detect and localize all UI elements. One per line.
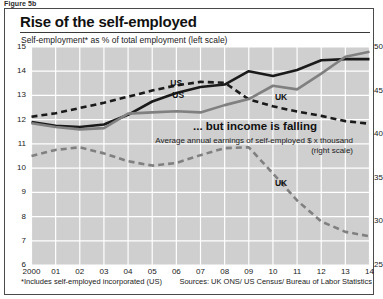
- right-axis-tick-30: 30: [374, 217, 383, 225]
- chart-title: Rise of the self-employed: [20, 13, 197, 30]
- x-axis-tick-04: 04: [115, 268, 141, 276]
- title-divider: [20, 32, 370, 33]
- right-axis-tick-35: 35: [374, 174, 383, 182]
- annotation-heading: ... but income is falling: [193, 120, 317, 133]
- series-label-employment-us: US: [170, 79, 182, 88]
- left-axis-tick-13: 13: [8, 91, 26, 99]
- left-axis-tick-7: 7: [8, 237, 26, 245]
- series-label-earnings-uk: UK: [275, 179, 287, 188]
- x-axis-tick-07: 07: [188, 268, 214, 276]
- x-axis-tick-11: 11: [284, 268, 310, 276]
- x-axis-tick-12: 12: [308, 268, 334, 276]
- x-axis-tick-13: 13: [332, 268, 358, 276]
- series-label-employment-uk: UK: [275, 93, 287, 102]
- figure-label: Figure 5b: [4, 0, 36, 8]
- x-axis-tick-01: 01: [43, 268, 69, 276]
- chart-subtitle: Self-employment* as % of total employmen…: [21, 35, 227, 45]
- left-axis-tick-12: 12: [8, 116, 26, 124]
- annotation-subtitle: Average annual earnings of self-employed…: [145, 136, 353, 156]
- right-axis-tick-50: 50: [374, 43, 383, 51]
- plot-area: [31, 47, 370, 265]
- left-axis-tick-15: 15: [8, 43, 26, 51]
- left-axis-tick-9: 9: [8, 188, 26, 196]
- x-axis-tick-05: 05: [139, 268, 165, 276]
- x-axis-tick-2000: 2000: [19, 268, 45, 276]
- x-axis-tick-03: 03: [91, 268, 117, 276]
- x-axis-tick-09: 09: [236, 268, 262, 276]
- x-axis-tick-02: 02: [67, 268, 93, 276]
- sources-note: Sources: UK ONS/ US Census/ Bureau of La…: [179, 277, 372, 286]
- series-label-earnings-us: US: [172, 91, 184, 100]
- x-axis-tick-10: 10: [260, 268, 286, 276]
- x-axis-tick-08: 08: [212, 268, 238, 276]
- right-axis-tick-45: 45: [374, 87, 383, 95]
- x-axis-tick-14: 14: [357, 268, 383, 276]
- footnote: *Includes self-employed incorporated (US…: [21, 277, 162, 286]
- left-axis-tick-14: 14: [8, 67, 26, 75]
- left-axis-tick-8: 8: [8, 213, 26, 221]
- left-axis-tick-10: 10: [8, 164, 26, 172]
- right-axis-tick-40: 40: [374, 130, 383, 138]
- x-axis-tick-06: 06: [163, 268, 189, 276]
- left-axis-tick-11: 11: [8, 140, 26, 148]
- chart-canvas: [31, 47, 370, 265]
